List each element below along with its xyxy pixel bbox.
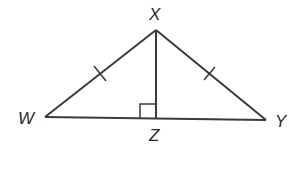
tick-mark-wx — [94, 66, 106, 81]
label-x: X — [148, 5, 161, 24]
segment-xy — [156, 30, 266, 120]
right-angle-mark — [140, 104, 155, 118]
diagram-svg: X W Y Z — [0, 0, 289, 174]
label-w: W — [18, 109, 36, 128]
label-z: Z — [148, 126, 160, 145]
triangle-diagram: X W Y Z — [0, 0, 289, 174]
label-y: Y — [275, 112, 288, 131]
